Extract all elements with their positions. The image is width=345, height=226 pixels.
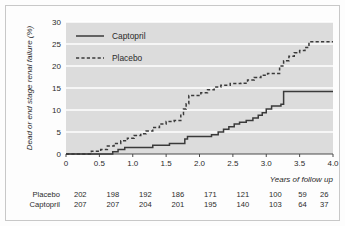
risk-cell: 121 xyxy=(227,190,260,200)
y-tick-label: 30 xyxy=(52,18,61,27)
risk-cell: 192 xyxy=(129,190,162,200)
risk-cell: 64 xyxy=(292,200,314,210)
risk-cell: 186 xyxy=(162,190,195,200)
risk-cell: 201 xyxy=(162,200,195,210)
figure-container: 00.51.01.52.02.53.03.54.0051015202530Dea… xyxy=(0,0,345,226)
risk-cell: 202 xyxy=(64,190,97,200)
y-tick-label: 15 xyxy=(52,84,61,93)
risk-cell: 59 xyxy=(292,190,314,200)
x-tick-label: 1.5 xyxy=(161,159,173,168)
risk-cell: 198 xyxy=(97,190,130,200)
x-tick-label: 2.0 xyxy=(194,159,206,168)
x-tick-label: 1.0 xyxy=(127,159,139,168)
y-tick-label: 5 xyxy=(57,128,62,137)
y-axis-title: Dead or end stage renal failure (%) xyxy=(25,25,34,150)
x-tick-label: 3.5 xyxy=(294,159,306,168)
y-tick-label: 20 xyxy=(52,62,61,71)
x-tick-label: 0.5 xyxy=(94,159,106,168)
legend-label-placebo: Placebo xyxy=(112,53,143,63)
risk-cell: 37 xyxy=(313,200,335,210)
risk-table-row: Captopril2072072042011951401036437 xyxy=(8,200,335,210)
risk-cell: 207 xyxy=(97,200,130,210)
x-axis-title: Years of follow up xyxy=(270,175,334,184)
x-tick-label: 0 xyxy=(64,159,69,168)
x-tick-label: 4.0 xyxy=(327,159,339,168)
risk-cell: 204 xyxy=(129,200,162,210)
x-tick-label: 2.5 xyxy=(227,159,239,168)
y-tick-label: 25 xyxy=(52,40,61,49)
risk-cell: 207 xyxy=(64,200,97,210)
risk-row-label: Placebo xyxy=(8,190,64,200)
x-tick-label: 3.0 xyxy=(261,159,273,168)
risk-cell: 103 xyxy=(259,200,292,210)
risk-cell: 140 xyxy=(227,200,260,210)
risk-cell: 171 xyxy=(194,190,227,200)
risk-table-row: Placebo2021981921861711211005926 xyxy=(8,190,335,200)
risk-cell: 100 xyxy=(259,190,292,200)
legend-label-captopril: Captopril xyxy=(112,31,146,41)
y-tick-label: 0 xyxy=(57,150,62,159)
numbers-at-risk-table: Placebo2021981921861711211005926Captopri… xyxy=(8,190,335,210)
risk-cell: 195 xyxy=(194,200,227,210)
risk-cell: 26 xyxy=(313,190,335,200)
y-tick-label: 10 xyxy=(52,106,61,115)
risk-row-label: Captopril xyxy=(8,200,64,210)
